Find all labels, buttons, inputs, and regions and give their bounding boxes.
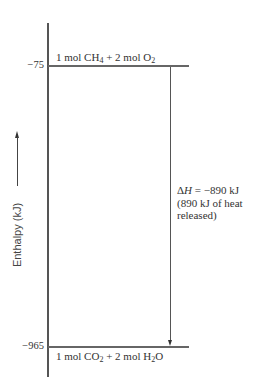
delta-h-annotation: ΔH = −890 kJ (890 kJ of heat released): [177, 184, 243, 222]
products-level-line: [48, 346, 189, 348]
delta-h-value: = −890 kJ: [192, 184, 239, 196]
products-text-2: + 2 mol H: [103, 350, 151, 362]
reactants-sub-2: 2: [151, 56, 155, 65]
enthalpy-axis: [47, 23, 49, 377]
reactants-text-1: 1 mol CH: [56, 51, 99, 63]
delta-h-line-3: released): [177, 209, 243, 222]
products-text-3: O: [155, 350, 163, 362]
enthalpy-change-arrow-shaft: [170, 67, 171, 341]
reactants-label: 1 mol CH4 + 2 mol O2: [56, 51, 155, 63]
delta-h-symbol: ΔH: [177, 184, 192, 196]
reactants-enthalpy-value: −75: [4, 59, 44, 70]
y-axis-label: Enthalpy (kJ): [11, 203, 23, 267]
reactants-text-2: + 2 mol O: [103, 51, 151, 63]
products-label: 1 mol CO2 + 2 mol H2O: [56, 350, 163, 362]
products-enthalpy-value: −965: [4, 340, 44, 351]
axis-up-arrow-shaft: [17, 137, 18, 186]
y-axis-label-container: Enthalpy (kJ): [6, 190, 28, 280]
products-text-1: 1 mol CO: [56, 350, 99, 362]
reactants-level-line: [48, 65, 189, 67]
delta-h-line-2: (890 kJ of heat: [177, 197, 243, 210]
delta-h-line-1: ΔH = −890 kJ: [177, 184, 243, 197]
